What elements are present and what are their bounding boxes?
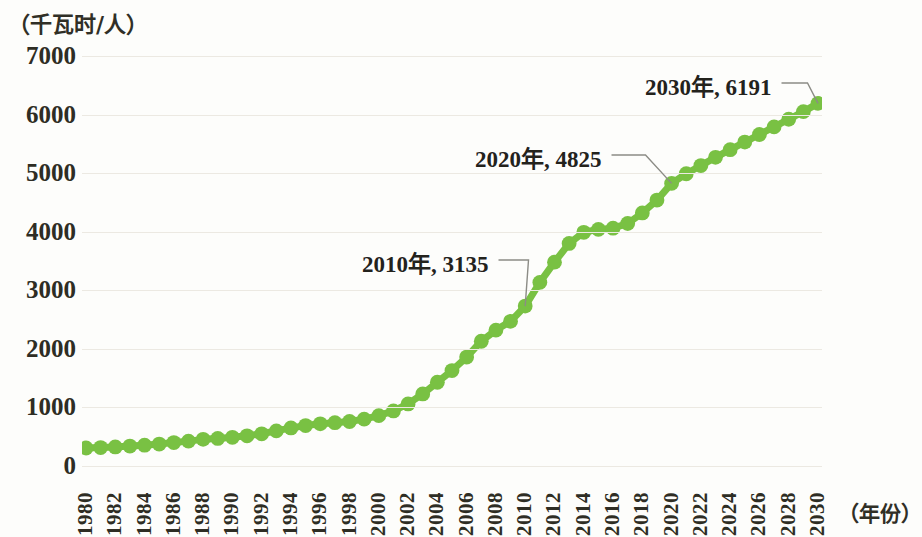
data-annotation-2020: 2020年, 4825	[475, 140, 602, 174]
data-annotation-2030: 2030年, 6191	[645, 68, 772, 102]
leader-line-2020	[612, 155, 672, 183]
data-annotation-2010: 2010年, 3135	[362, 245, 489, 279]
leader-line-2030	[782, 83, 819, 103]
chart-container: （千瓦时/人） （年份） 700060005000400030002000100…	[0, 0, 922, 537]
leader-line-2010	[499, 260, 529, 306]
